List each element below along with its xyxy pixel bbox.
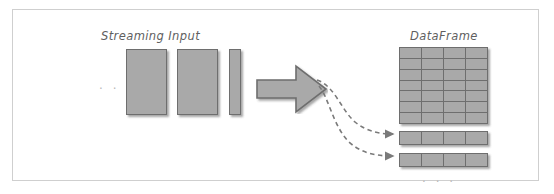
dataframe-label: DataFrame bbox=[410, 29, 478, 43]
dataframe-cell bbox=[466, 70, 487, 80]
dataframe-cell bbox=[466, 81, 487, 91]
dataframe-cell bbox=[444, 91, 465, 101]
dataframe-cell bbox=[400, 113, 421, 123]
dataframe-cell bbox=[400, 91, 421, 101]
dataframe-cell bbox=[400, 102, 421, 112]
streaming-input-label: Streaming Input bbox=[101, 29, 200, 43]
dataframe-cell bbox=[444, 81, 465, 91]
dataframe-cell bbox=[444, 113, 465, 123]
dataframe-cell bbox=[422, 91, 443, 101]
dataframe-cell bbox=[422, 102, 443, 112]
appended-row-cell bbox=[466, 154, 487, 166]
appended-row-cell bbox=[466, 132, 487, 144]
dataframe-cell bbox=[466, 91, 487, 101]
dashed-connector-1 bbox=[317, 80, 393, 134]
dashed-connector-2 bbox=[319, 86, 393, 156]
dataframe-cell bbox=[422, 59, 443, 69]
appended-row-2 bbox=[399, 153, 488, 167]
dataframe-grid bbox=[399, 47, 488, 124]
dataframe-cell bbox=[422, 48, 443, 58]
dataframe-cell bbox=[466, 59, 487, 69]
appended-row-1 bbox=[399, 131, 488, 145]
appended-row-cell bbox=[444, 132, 465, 144]
diagram-canvas: Streaming Input DataFrame . . . bbox=[0, 0, 554, 194]
appended-row-cell bbox=[444, 154, 465, 166]
appended-row-cell bbox=[422, 132, 443, 144]
appended-row-cell bbox=[400, 132, 421, 144]
batch-block-1 bbox=[126, 49, 167, 115]
dataframe-cell bbox=[400, 81, 421, 91]
dataframe-cell bbox=[444, 59, 465, 69]
batch-block-3 bbox=[229, 49, 241, 115]
dataframe-cell bbox=[422, 81, 443, 91]
dataframe-cell bbox=[466, 113, 487, 123]
dataframe-cell bbox=[422, 70, 443, 80]
dataframe-cell bbox=[444, 70, 465, 80]
diagram-frame: Streaming Input DataFrame . . . bbox=[12, 9, 539, 181]
appended-row-cell bbox=[422, 154, 443, 166]
dataframe-cell bbox=[444, 102, 465, 112]
dataframe-cell bbox=[422, 113, 443, 123]
dataframe-cell bbox=[400, 48, 421, 58]
appended-row-cell bbox=[400, 154, 421, 166]
dataframe-cell bbox=[466, 48, 487, 58]
batch-block-2 bbox=[177, 49, 218, 115]
dataframe-cell bbox=[400, 59, 421, 69]
dataframe-cell bbox=[466, 102, 487, 112]
dataframe-ellipsis: . . . bbox=[422, 171, 456, 185]
dataframe-cell bbox=[400, 70, 421, 80]
dataframe-cell bbox=[444, 48, 465, 58]
